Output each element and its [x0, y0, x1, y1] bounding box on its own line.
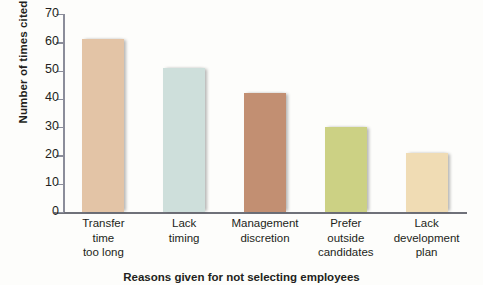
- x-axis-line: [54, 212, 467, 214]
- x-axis-category-label-line: candidates: [305, 245, 386, 260]
- y-tick-label: 10: [45, 175, 59, 189]
- x-axis-category-label-line: Management: [225, 216, 306, 231]
- bar: [406, 153, 448, 212]
- bar: [82, 39, 124, 212]
- x-axis-title: Reasons given for not selecting employee…: [0, 271, 483, 283]
- x-axis-category-label: Preferoutsidecandidates: [305, 216, 386, 260]
- bar: [244, 93, 286, 212]
- x-axis-category-label: Managementdiscretion: [225, 216, 306, 245]
- x-axis-category-label-line: outside: [305, 231, 386, 246]
- x-axis-category-label-line: development: [386, 231, 467, 246]
- bar-series: [63, 14, 467, 212]
- y-tick-label: 0: [52, 204, 59, 218]
- bar: [163, 68, 205, 212]
- bar-chart-figure: Number of times cited 010203040506070 Tr…: [0, 0, 483, 285]
- x-axis-category-label: Transfertimetoo long: [63, 216, 144, 260]
- y-tick-label: 20: [45, 147, 59, 161]
- x-axis-category-label: Lacktiming: [144, 216, 225, 245]
- y-tick-label: 30: [45, 119, 59, 133]
- x-axis-category-label-line: Prefer: [305, 216, 386, 231]
- x-axis-category-label-line: too long: [63, 245, 144, 260]
- y-axis-title: Number of times cited: [17, 0, 29, 147]
- y-tick-label: 40: [45, 90, 59, 104]
- x-axis-category-labels: Transfertimetoo longLacktimingManagement…: [63, 216, 467, 266]
- x-axis-category-label: Lackdevelopmentplan: [386, 216, 467, 260]
- x-axis-category-label-line: Transfer: [63, 216, 144, 231]
- plot-area: 010203040506070: [63, 14, 467, 212]
- bar: [325, 127, 367, 212]
- x-axis-category-label-line: timing: [144, 231, 225, 246]
- x-axis-category-label-line: Lack: [144, 216, 225, 231]
- x-axis-category-label-line: discretion: [225, 231, 306, 246]
- x-axis-category-label-line: Lack: [386, 216, 467, 231]
- y-tick-label: 60: [45, 34, 59, 48]
- y-tick-label: 50: [45, 62, 59, 76]
- x-axis-category-label-line: time: [63, 231, 144, 246]
- y-tick-label: 70: [45, 6, 59, 20]
- x-axis-category-label-line: plan: [386, 245, 467, 260]
